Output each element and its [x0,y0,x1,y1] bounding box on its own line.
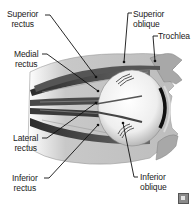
label-lateral-rectus: Lateral rectus [13,133,38,153]
label-line: oblique [140,182,167,192]
label-line: Inferior [12,173,38,183]
label-line: oblique [133,19,164,29]
eyeball [98,70,166,146]
label-inferior-oblique: Inferior oblique [140,172,167,192]
label-line: Superior [133,9,164,19]
label-line: Trochlea [158,31,190,41]
label-inferior-rectus: Inferior rectus [12,173,38,193]
eye-muscle-diagram: Superior rectus Superior oblique Trochle… [0,0,194,209]
label-line: rectus [13,143,38,153]
label-line: Lateral [13,133,38,143]
label-line: Inferior [140,172,167,182]
label-line: rectus [14,59,38,69]
label-trochlea: Trochlea [158,31,190,41]
label-line: Superior [7,9,38,19]
label-superior-oblique: Superior oblique [133,9,164,29]
label-line: Medial [14,49,38,59]
label-line: rectus [12,183,38,193]
label-medial-rectus: Medial rectus [14,49,38,69]
publisher-logo-icon [178,193,189,204]
label-superior-rectus: Superior rectus [7,9,38,29]
label-line: rectus [7,19,38,29]
